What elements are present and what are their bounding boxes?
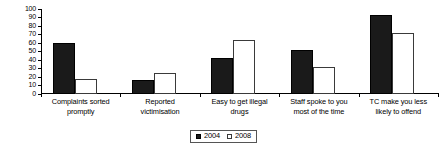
bar-2004-5 bbox=[370, 15, 392, 94]
category-label-line: Staff spoke to you bbox=[279, 97, 358, 107]
y-tick-label: 10 bbox=[29, 81, 36, 89]
y-tick-label: 50 bbox=[29, 47, 36, 55]
bar-group bbox=[120, 9, 199, 94]
legend-label-2008: 2008 bbox=[235, 132, 251, 140]
category-label: Reportedvictimisation bbox=[120, 97, 199, 116]
category-label-line: promptly bbox=[41, 107, 120, 117]
category-label-line: likely to offend bbox=[359, 107, 438, 117]
category-label: TC make you lesslikely to offend bbox=[359, 97, 438, 116]
y-tick-label: 30 bbox=[29, 64, 36, 72]
bar-2008-4 bbox=[313, 67, 335, 94]
category-label-line: Complaints sorted bbox=[41, 97, 120, 107]
filled-square-icon bbox=[196, 134, 201, 139]
bar-2004-2 bbox=[132, 80, 154, 94]
bar-group bbox=[359, 9, 438, 94]
y-tick-label: 0 bbox=[32, 90, 36, 98]
y-tick-label: 40 bbox=[29, 56, 36, 64]
category-label-line: Easy to get illegal bbox=[200, 97, 279, 107]
category-label-line: TC make you less bbox=[359, 97, 438, 107]
bar-group bbox=[200, 9, 279, 94]
bar-group bbox=[41, 9, 120, 94]
bar-2008-1 bbox=[75, 79, 97, 94]
y-tick-label: 80 bbox=[29, 22, 36, 30]
y-tick-label: 100 bbox=[25, 5, 36, 13]
bar-groups bbox=[41, 9, 438, 94]
category-label: Complaints sortedpromptly bbox=[41, 97, 120, 116]
bar-2004-4 bbox=[291, 50, 313, 94]
bar-2008-3 bbox=[233, 40, 255, 94]
legend-item-2008: 2008 bbox=[227, 132, 251, 140]
category-label: Easy to get illegaldrugs bbox=[200, 97, 279, 116]
bar-chart: 0102030405060708090100 Complaints sorted… bbox=[0, 0, 446, 151]
category-label-line: Reported bbox=[120, 97, 199, 107]
bar-2004-3 bbox=[211, 58, 233, 94]
bar-2008-5 bbox=[392, 33, 414, 94]
category-label-line: victimisation bbox=[120, 107, 199, 117]
category-label-line: most of the time bbox=[279, 107, 358, 117]
legend-label-2004: 2004 bbox=[204, 132, 220, 140]
category-labels: Complaints sortedpromptlyReportedvictimi… bbox=[41, 97, 438, 123]
y-tick-label: 20 bbox=[29, 73, 36, 81]
hollow-square-icon bbox=[227, 134, 232, 139]
y-tick-label: 90 bbox=[29, 13, 36, 21]
legend-item-2004: 2004 bbox=[196, 132, 220, 140]
y-tick-label: 70 bbox=[29, 30, 36, 38]
y-tick-label: 60 bbox=[29, 39, 36, 47]
category-label-line: drugs bbox=[200, 107, 279, 117]
bar-2008-2 bbox=[154, 73, 176, 94]
bar-2004-1 bbox=[53, 43, 75, 94]
x-tick-mark bbox=[438, 93, 439, 97]
chart-legend: 2004 2008 bbox=[190, 130, 257, 143]
bar-group bbox=[279, 9, 358, 94]
category-label: Staff spoke to youmost of the time bbox=[279, 97, 358, 116]
